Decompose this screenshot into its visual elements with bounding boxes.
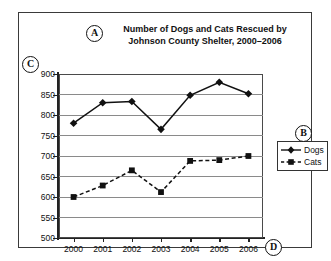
series-layer <box>59 74 263 238</box>
y-axis-tick-label: 750 <box>31 132 55 141</box>
y-axis-tick-mark <box>53 218 57 219</box>
legend-item-dogs: Dogs <box>280 144 324 156</box>
chart-title-line-1: Number of Dogs and Cats Rescued by <box>105 23 305 35</box>
data-point-cats <box>216 157 222 163</box>
data-point-cats <box>100 183 106 189</box>
legend-item-cats: Cats <box>280 156 324 168</box>
chart-title: Number of Dogs and Cats Rescued by Johns… <box>105 23 305 47</box>
x-axis-tick-mark <box>248 238 249 242</box>
chart-title-line-2: Johnson County Shelter, 2000–2006 <box>105 35 305 47</box>
series-line-dogs <box>74 82 249 129</box>
y-axis-tick-mark <box>53 156 57 157</box>
data-point-cats <box>71 194 77 200</box>
y-axis-tick-label: 500 <box>31 234 55 243</box>
data-point-cats <box>129 167 135 173</box>
x-axis-tick-label: 2002 <box>117 244 147 254</box>
legend-label-dogs: Dogs <box>302 145 324 155</box>
plot-area <box>59 74 263 238</box>
x-axis-tick-label: 2003 <box>146 244 176 254</box>
chart-legend: Dogs Cats <box>277 141 328 171</box>
data-point-dogs <box>245 90 253 98</box>
y-axis-tick-mark <box>53 197 57 198</box>
y-axis-tick-mark <box>53 136 57 137</box>
y-axis-tick-label: 850 <box>31 91 55 100</box>
y-axis-tick-mark <box>53 74 57 75</box>
y-axis-tick-mark <box>53 238 57 239</box>
annotation-badge-a: A <box>86 25 103 42</box>
legend-label-cats: Cats <box>302 157 321 167</box>
x-axis-tick-label: 2004 <box>175 244 205 254</box>
y-axis-tick-label: 650 <box>31 173 55 182</box>
x-axis-tick-label: 2006 <box>233 244 263 254</box>
data-point-dogs <box>215 78 223 86</box>
legend-marker-dogs <box>280 144 302 156</box>
data-point-cats <box>246 153 252 159</box>
legend-marker-cats <box>280 156 302 168</box>
x-axis-tick-mark <box>132 238 133 242</box>
y-axis-tick-label: 700 <box>31 152 55 161</box>
y-axis-tick-label: 550 <box>31 214 55 223</box>
data-point-cats <box>187 158 193 164</box>
x-axis-tick-label: 2005 <box>204 244 234 254</box>
y-axis-tick-mark <box>53 115 57 116</box>
x-axis-tick-mark <box>74 238 75 242</box>
annotation-badge-d: D <box>265 239 282 256</box>
x-axis-tick-mark <box>219 238 220 242</box>
data-point-cats <box>158 189 164 195</box>
annotation-badge-c: C <box>22 56 39 73</box>
y-axis-tick-label: 800 <box>31 111 55 120</box>
y-axis-tick-mark <box>53 177 57 178</box>
x-axis-tick-mark <box>103 238 104 242</box>
annotation-badge-b: B <box>295 125 312 142</box>
x-axis-tick-label: 2000 <box>59 244 89 254</box>
chart-figure: A B C D Number of Dogs and Cats Rescued … <box>18 12 312 248</box>
y-axis-tick-mark <box>53 95 57 96</box>
x-axis-tick-mark <box>190 238 191 242</box>
y-axis-tick-label: 600 <box>31 193 55 202</box>
x-axis-tick-mark <box>161 238 162 242</box>
x-axis-tick-label: 2001 <box>88 244 118 254</box>
y-axis-tick-labels: 500550600650700750800850900 <box>25 13 55 249</box>
